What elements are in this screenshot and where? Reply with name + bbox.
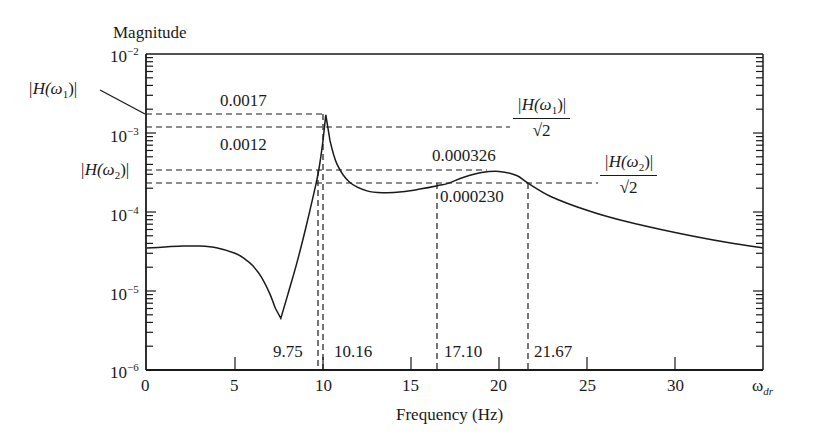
ytick-1e-5: 10−5 [110,284,139,303]
omega-sub: dr [763,385,773,397]
h1-over-root2-label: |H(ω1)| √2 [513,96,570,139]
vline-label-2167: 21.67 [534,343,572,360]
ytick-1e-4: 10−4 [110,205,139,224]
ytick-base: 10 [110,363,127,382]
ytick-exp: −3 [127,125,139,137]
x-axis-label: Frequency (Hz) [396,406,503,423]
xtick-25: 25 [579,377,596,394]
h1-leader-line [100,90,145,114]
close-paren: )| [120,160,129,179]
xtick-10: 10 [315,377,332,394]
value-000326: 0.000326 [432,147,496,164]
h-omega: |H(ω [28,79,63,98]
ytick-exp: −2 [127,45,139,57]
value-000230: 0.000230 [440,188,504,205]
ytick-exp: −5 [127,283,139,295]
frac-numerator: |H(ω2)| [600,153,657,176]
value-0017: 0.0017 [220,92,267,109]
xtick-15: 15 [402,377,419,394]
xtick-0: 0 [141,377,150,394]
xtick-5: 5 [230,377,239,394]
frac-numerator: |H(ω1)| [513,96,570,119]
ytick-base: 10 [110,206,127,225]
h2-over-root2-label: |H(ω2)| √2 [600,153,657,196]
h-omega: |H(ω [517,95,552,114]
xtick-30: 30 [667,377,684,394]
vline-label-1710: 17.10 [444,343,482,360]
ytick-base: 10 [110,47,127,66]
close-paren: )| [644,152,653,171]
value-0012: 0.0012 [220,136,267,153]
ytick-base: 10 [110,285,127,304]
ytick-1e-3: 10−3 [110,126,139,145]
x-end-label: ωdr [752,377,773,397]
ytick-1e-2: 10−2 [110,46,139,65]
dashed-guides [146,114,598,370]
ytick-1e-6: 10−6 [110,362,139,381]
xtick-20: 20 [490,377,507,394]
close-paren: )| [557,95,566,114]
h2-side-label: |H(ω2)| [80,161,129,181]
vline-label-1016: 10.16 [334,343,372,360]
frac-denominator: √2 [513,119,570,139]
ytick-exp: −4 [127,204,139,216]
h1-side-label: |H(ω1)| [28,80,77,100]
ytick-exp: −6 [127,361,139,373]
h-omega: |H(ω [604,152,639,171]
frac-denominator: √2 [600,176,657,196]
omega-symbol: ω [752,376,763,395]
y-axis-label: Magnitude [113,24,187,41]
ytick-base: 10 [110,127,127,146]
close-paren: )| [68,79,77,98]
h-omega: |H(ω [80,160,115,179]
vline-label-975: 9.75 [273,343,303,360]
